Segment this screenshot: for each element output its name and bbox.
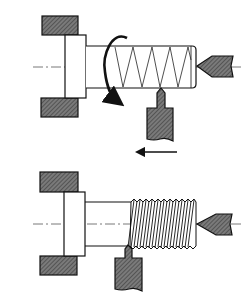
chuck-jaw-top — [42, 16, 78, 35]
chuck-body — [64, 192, 85, 256]
tailstock-center — [197, 56, 233, 77]
thread-teeth — [128, 199, 196, 249]
chuck-jaw-top — [40, 172, 78, 192]
tailstock-center — [197, 214, 232, 235]
panel-before — [33, 16, 243, 152]
chuck-jaw-bottom — [40, 256, 77, 275]
chuck-jaw-bottom — [41, 98, 78, 117]
cutting-tool — [115, 245, 142, 291]
panel-after — [33, 172, 243, 291]
cutting-tool — [147, 88, 173, 141]
lathe-threading-diagram: Thread cutting on a lathe — [0, 0, 251, 302]
chuck-body — [65, 35, 86, 98]
